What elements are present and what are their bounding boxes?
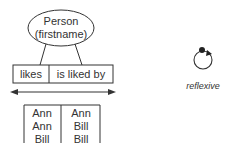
entity-name: Person <box>44 15 79 27</box>
cell: Ann <box>71 107 91 119</box>
cell: Bill <box>74 133 89 145</box>
cell: Bill <box>35 133 50 145</box>
cell: Ann <box>32 107 52 119</box>
fact-type-roles: likes is liked by <box>13 65 113 83</box>
role-connector-right <box>75 44 82 65</box>
population-table: Ann Ann Ann Bill Bill Bill <box>24 105 100 145</box>
double-arrow-icon <box>10 89 116 95</box>
constraint-label: reflexive <box>186 81 220 91</box>
orm-diagram: Person (firstname) likes is liked by Ann… <box>0 0 237 158</box>
role-is-liked-by: is liked by <box>57 68 106 80</box>
cell: Bill <box>74 120 89 132</box>
reflexive-ring-icon <box>194 47 212 69</box>
role-likes: likes <box>20 68 43 80</box>
entity-attribute: (firstname) <box>35 28 88 40</box>
role-connector-left <box>40 44 46 65</box>
entity-type-person: Person (firstname) <box>28 10 94 46</box>
cell: Ann <box>32 120 52 132</box>
